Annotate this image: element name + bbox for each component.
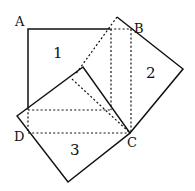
dashed-diagonal-to-c bbox=[72, 79, 130, 133]
square-1-outline bbox=[28, 29, 110, 108]
label-region-2: 2 bbox=[146, 64, 156, 82]
label-point-d: D bbox=[14, 129, 24, 144]
label-point-a: A bbox=[14, 14, 25, 29]
diagram-canvas: A B C D 1 2 3 bbox=[0, 0, 195, 191]
square-3-outline bbox=[17, 67, 130, 182]
label-region-1: 1 bbox=[53, 44, 63, 62]
label-point-c: C bbox=[127, 135, 137, 150]
label-point-b: B bbox=[134, 21, 144, 36]
geometry-figure: A B C D 1 2 3 bbox=[0, 0, 195, 191]
label-region-3: 3 bbox=[70, 141, 80, 159]
